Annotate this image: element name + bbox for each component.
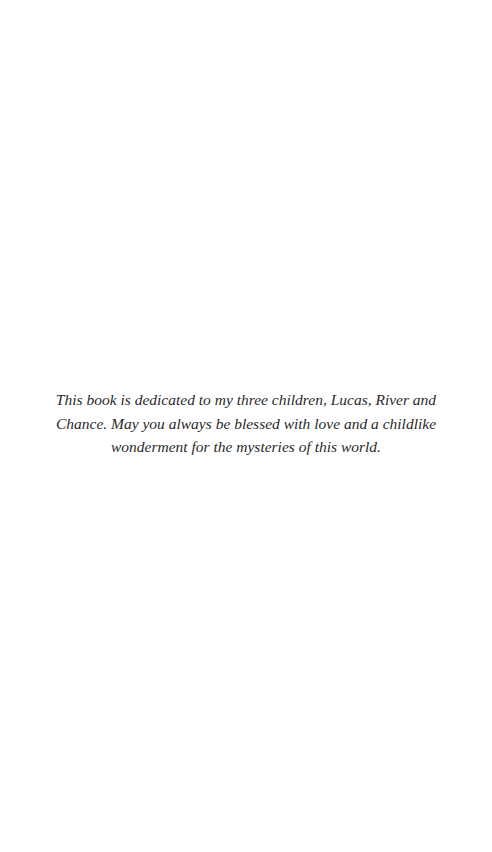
book-page: This book is dedicated to my three child… (0, 0, 492, 852)
dedication-text: This book is dedicated to my three child… (40, 388, 452, 459)
